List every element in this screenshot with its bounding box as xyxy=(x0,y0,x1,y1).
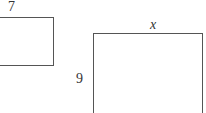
small-rectangle-width-label: 7 xyxy=(8,0,15,14)
small-rectangle xyxy=(0,17,54,66)
large-rectangle-height-label: 9 xyxy=(76,72,83,86)
large-rectangle xyxy=(93,33,203,113)
large-rectangle-width-label: x xyxy=(150,18,156,32)
